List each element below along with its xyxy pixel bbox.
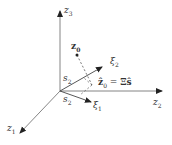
label-xi2: ξ2	[110, 57, 119, 68]
projection-lines	[77, 55, 92, 95]
label-z0: z0	[71, 42, 80, 53]
axis-z1	[20, 91, 60, 133]
label-z2: z2	[153, 98, 162, 109]
label-z3: z3	[64, 6, 73, 17]
label-s2-lower: s2	[63, 95, 71, 106]
label-z1: z1	[7, 124, 16, 135]
label-s2-upper: s2	[63, 74, 71, 85]
label-xi1: ξ1	[93, 101, 102, 112]
label-projection: ẑ0 = Ξŝ	[98, 78, 132, 89]
diagram-canvas	[0, 0, 172, 145]
point-z0	[76, 54, 79, 57]
